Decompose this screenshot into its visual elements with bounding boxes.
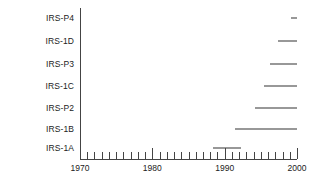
category-label-irs-1d: IRS-1D	[46, 36, 74, 46]
x-tick-1997	[275, 152, 276, 159]
x-tick-1986	[196, 152, 197, 159]
bar-irs-p4	[291, 18, 297, 19]
x-tick-1973	[102, 152, 103, 159]
y-axis-line	[80, 8, 81, 160]
x-tick-1988	[210, 152, 211, 159]
x-tick-1976	[123, 152, 124, 159]
category-label-irs-p4: IRS-P4	[46, 13, 74, 23]
bar-irs-1b	[235, 129, 297, 130]
x-tick-1992	[239, 152, 240, 159]
category-label-irs-1c: IRS-1C	[46, 81, 74, 91]
x-tick-1984	[181, 152, 182, 159]
x-tick-1999	[290, 152, 291, 159]
x-tick-label-1970: 1970	[71, 163, 90, 173]
x-tick-label-1990: 1990	[215, 163, 234, 173]
x-tick-1994	[254, 152, 255, 159]
x-tick-1996	[268, 152, 269, 159]
x-tick-1970	[80, 148, 81, 159]
x-tick-1980	[152, 148, 153, 159]
x-tick-1995	[261, 152, 262, 159]
x-tick-1983	[174, 152, 175, 159]
x-tick-1979	[145, 152, 146, 159]
bar-irs-1d	[278, 41, 297, 42]
bar-irs-1a	[213, 148, 240, 149]
category-label-irs-p2: IRS-P2	[46, 103, 74, 113]
x-tick-1990	[225, 148, 226, 159]
x-tick-label-2000: 2000	[288, 163, 307, 173]
category-label-irs-p3: IRS-P3	[46, 59, 74, 69]
timeline-chart: IRS-P4IRS-1DIRS-P3IRS-1CIRS-P2IRS-1BIRS-…	[0, 0, 311, 193]
x-tick-1989	[217, 152, 218, 159]
x-axis-line	[80, 159, 297, 160]
x-tick-1985	[189, 152, 190, 159]
x-tick-2000	[297, 148, 298, 159]
category-label-irs-1a: IRS-1A	[46, 143, 74, 153]
bar-irs-p3	[270, 64, 297, 65]
x-tick-1993	[246, 152, 247, 159]
x-tick-1987	[203, 152, 204, 159]
x-tick-1998	[283, 152, 284, 159]
x-tick-1981	[160, 152, 161, 159]
x-tick-1991	[232, 152, 233, 159]
x-tick-1971	[87, 152, 88, 159]
x-tick-1982	[167, 152, 168, 159]
x-tick-1975	[116, 152, 117, 159]
x-tick-1974	[109, 152, 110, 159]
bar-irs-p2	[255, 108, 297, 109]
x-tick-1972	[94, 152, 95, 159]
bar-irs-1c	[264, 86, 297, 87]
x-tick-label-1980: 1980	[143, 163, 162, 173]
x-tick-1978	[138, 152, 139, 159]
category-label-irs-1b: IRS-1B	[46, 124, 74, 134]
x-tick-1977	[131, 152, 132, 159]
